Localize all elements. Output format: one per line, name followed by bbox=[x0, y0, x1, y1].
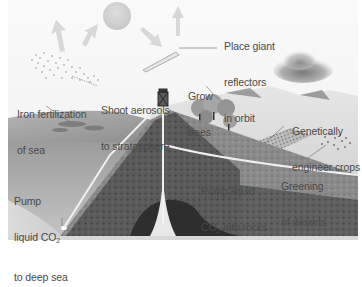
co2-text: CO bbox=[201, 221, 217, 233]
label-line: of deserts bbox=[281, 216, 326, 228]
label-text: into rocks bbox=[220, 221, 267, 233]
label-line: trees bbox=[188, 126, 213, 138]
label-line: reflectors bbox=[224, 76, 275, 88]
label-pump-co2-deep-sea: Pump liquid CO2 to deep sea bbox=[14, 171, 68, 287]
label-iron-fertilization: Iron fertilization of sea bbox=[17, 84, 86, 180]
label-line: Shoot aerosols bbox=[101, 104, 170, 116]
label-greening-deserts: Greening of deserts bbox=[281, 156, 326, 252]
label-line: to deep sea bbox=[14, 271, 68, 283]
label-space-reflectors: Place giant reflectors in orbit bbox=[224, 16, 275, 148]
label-line: CO2 into rocks bbox=[201, 221, 267, 237]
label-line: Pump bbox=[14, 195, 68, 207]
label-aerosols: Shoot aerosols to stratosphere bbox=[101, 80, 170, 176]
label-line: liquid CO2 bbox=[14, 231, 68, 247]
label-line: to stratosphere bbox=[101, 140, 170, 152]
label-line: Grow bbox=[188, 90, 213, 102]
label-line: Pump liquid bbox=[201, 185, 267, 197]
label-line: Iron fertilization bbox=[17, 108, 86, 120]
co2-text: liquid CO bbox=[14, 231, 56, 243]
label-pump-co2-rocks: Pump liquid CO2 into rocks bbox=[201, 161, 267, 261]
label-line: of sea bbox=[17, 144, 86, 156]
label-line: in orbit bbox=[224, 112, 275, 124]
label-line: Genetically bbox=[292, 125, 360, 137]
label-line: Greening bbox=[281, 180, 326, 192]
label-line: Place giant bbox=[224, 40, 275, 52]
sun-icon bbox=[103, 2, 131, 30]
subscript: 2 bbox=[56, 237, 60, 244]
label-grow-trees: Grow trees bbox=[188, 66, 213, 162]
